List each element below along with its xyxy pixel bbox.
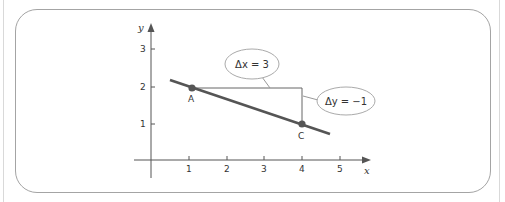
delta-y-text: Δy = −1 bbox=[325, 96, 367, 107]
slope-diagram: y 3 2 1 x 1 2 3 4 5 A C bbox=[0, 0, 505, 202]
x-tick-3: 3 bbox=[261, 164, 267, 174]
y-tick-1: 1 bbox=[140, 119, 146, 129]
x-axis: x 1 2 3 4 5 bbox=[134, 156, 371, 176]
delta-x-callout-tail bbox=[262, 77, 270, 88]
delta-y-callout-tail bbox=[303, 96, 318, 100]
y-axis-arrow-icon bbox=[148, 23, 155, 32]
point-c-marker bbox=[298, 120, 305, 127]
point-c-label: C bbox=[298, 131, 304, 141]
x-tick-2: 2 bbox=[224, 164, 230, 174]
point-c: C bbox=[298, 120, 306, 141]
y-tick-3: 3 bbox=[140, 44, 146, 54]
x-tick-4: 4 bbox=[299, 164, 305, 174]
y-axis-label: y bbox=[137, 22, 144, 33]
point-a-label: A bbox=[188, 94, 195, 104]
delta-y-callout: Δy = −1 bbox=[303, 87, 375, 115]
x-tick-1: 1 bbox=[186, 164, 192, 174]
point-a: A bbox=[188, 84, 196, 104]
delta-x-callout: Δx = 3 bbox=[225, 49, 279, 88]
x-axis-arrow-icon bbox=[362, 157, 371, 164]
x-tick-5: 5 bbox=[337, 164, 343, 174]
y-tick-2: 2 bbox=[140, 82, 146, 92]
delta-x-text: Δx = 3 bbox=[235, 59, 269, 70]
y-axis: y 3 2 1 bbox=[137, 22, 155, 178]
x-axis-label: x bbox=[364, 165, 370, 176]
point-a-marker bbox=[188, 84, 195, 91]
